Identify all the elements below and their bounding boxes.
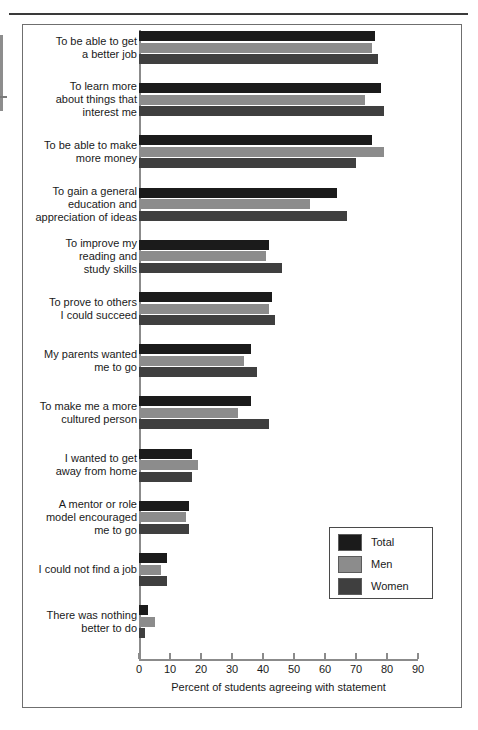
x-tick-label: 90: [412, 663, 424, 675]
category-label-line: reading and: [22, 250, 137, 263]
legend-swatch: [338, 534, 362, 551]
category-label: To prove to othersI could succeed: [22, 296, 137, 322]
bar-group: To be able to makemore money: [0, 135, 478, 168]
category-label-line: To be able to get: [22, 35, 137, 48]
x-tick: [262, 653, 264, 659]
x-tick: [355, 653, 357, 659]
category-label: I could not find a job: [22, 563, 137, 576]
category-label-line: To make me a more: [22, 400, 137, 413]
bar-total: [139, 135, 372, 145]
x-tick-label: 70: [350, 663, 362, 675]
bar-total: [139, 605, 148, 615]
x-axis-line: [139, 659, 418, 661]
bar-men: [139, 304, 269, 314]
bar-group: To make me a morecultured person: [0, 396, 478, 429]
x-tick-label: 30: [226, 663, 238, 675]
bar-men: [139, 565, 161, 575]
category-label-line: To learn more: [22, 80, 137, 93]
bar-group: I wanted to getaway from home: [0, 449, 478, 482]
category-label-line: me to go: [22, 524, 137, 537]
x-tick: [293, 653, 295, 659]
bar-women: [139, 54, 378, 64]
x-tick-label: 80: [381, 663, 393, 675]
bar-men: [139, 460, 198, 470]
bar-group: To be able to geta better job: [0, 31, 478, 64]
category-label: To be able to geta better job: [22, 35, 137, 61]
bar-men: [139, 43, 372, 53]
category-label-line: about things that: [22, 93, 137, 106]
category-label: To make me a morecultured person: [22, 400, 137, 426]
bar-women: [139, 628, 145, 638]
category-label: To learn moreabout things thatinterest m…: [22, 80, 137, 119]
chart-page: 0102030405060708090 To be able to geta b…: [0, 0, 478, 730]
legend-swatch: [338, 578, 362, 595]
bar-women: [139, 315, 275, 325]
legend-label: Women: [371, 580, 409, 592]
bar-total: [139, 240, 269, 250]
bar-group: To improve myreading andstudy skills: [0, 240, 478, 273]
x-tick-label: 0: [136, 663, 142, 675]
bar-men: [139, 408, 238, 418]
bar-women: [139, 419, 269, 429]
category-label: To improve myreading andstudy skills: [22, 237, 137, 276]
category-label-line: appreciation of ideas: [22, 211, 137, 224]
category-label-line: me to go: [22, 361, 137, 374]
category-label-line: study skills: [22, 263, 137, 276]
category-label: To gain a generaleducation andappreciati…: [22, 185, 137, 224]
bar-men: [139, 199, 310, 209]
x-tick-label: 40: [257, 663, 269, 675]
category-label-line: I wanted to get: [22, 452, 137, 465]
x-tick-label: 10: [164, 663, 176, 675]
x-tick: [138, 653, 140, 659]
category-label-line: model encouraged: [22, 511, 137, 524]
legend-label: Total: [371, 536, 394, 548]
category-label-line: away from home: [22, 465, 137, 478]
category-label-line: I could succeed: [22, 309, 137, 322]
x-tick: [200, 653, 202, 659]
category-label-line: To gain a general: [22, 185, 137, 198]
x-tick-label: 20: [195, 663, 207, 675]
bar-women: [139, 158, 356, 168]
bar-total: [139, 292, 272, 302]
category-label: A mentor or rolemodel encouragedme to go: [22, 498, 137, 537]
x-tick: [417, 653, 419, 659]
bar-total: [139, 83, 381, 93]
bar-men: [139, 251, 266, 261]
bar-group: To gain a generaleducation andappreciati…: [0, 188, 478, 221]
bar-total: [139, 344, 251, 354]
plot-area: 0102030405060708090 To be able to geta b…: [0, 0, 478, 730]
x-tick-label: 50: [288, 663, 300, 675]
bar-total: [139, 501, 189, 511]
bar-total: [139, 188, 337, 198]
x-tick: [169, 653, 171, 659]
x-axis-title: Percent of students agreeing with statem…: [139, 681, 418, 693]
bar-total: [139, 396, 251, 406]
category-label: My parents wantedme to go: [22, 348, 137, 374]
bar-men: [139, 617, 155, 627]
bar-men: [139, 356, 244, 366]
category-label-line: A mentor or role: [22, 498, 137, 511]
legend-swatch: [338, 556, 362, 573]
bar-women: [139, 106, 384, 116]
category-label: There was nothingbetter to do: [22, 609, 137, 635]
bar-women: [139, 576, 167, 586]
bar-women: [139, 472, 192, 482]
category-label-line: I could not find a job: [22, 563, 137, 576]
category-label-line: more money: [22, 152, 137, 165]
bar-total: [139, 31, 375, 41]
x-tick: [324, 653, 326, 659]
x-tick: [231, 653, 233, 659]
bar-group: There was nothingbetter to do: [0, 605, 478, 638]
bar-total: [139, 553, 167, 563]
category-label-line: education and: [22, 198, 137, 211]
bar-women: [139, 524, 189, 534]
bar-women: [139, 263, 282, 273]
bar-group: My parents wantedme to go: [0, 344, 478, 377]
bar-men: [139, 147, 384, 157]
category-label-line: There was nothing: [22, 609, 137, 622]
category-label-line: interest me: [22, 106, 137, 119]
bar-group: To prove to othersI could succeed: [0, 292, 478, 325]
category-label-line: To prove to others: [22, 296, 137, 309]
category-label: To be able to makemore money: [22, 139, 137, 165]
bar-group: To learn moreabout things thatinterest m…: [0, 83, 478, 116]
